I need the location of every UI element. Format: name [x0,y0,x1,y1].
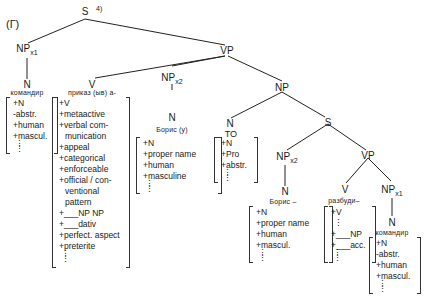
ellipsis-icon: ⋮⋮ [221,171,253,181]
feature: +V [59,98,125,109]
feature: +N [221,138,253,149]
feature: ⋮ [331,218,371,229]
feature: +perfect. aspect [59,230,125,241]
ellipsis-icon: ⋮⋮ [331,251,371,261]
feature: +Pro [221,149,253,160]
node-n-to: N [226,118,233,129]
lexeme-komandir-2: командир [375,229,408,237]
node-np-x2-object: NPx2 [161,72,182,87]
node-v-embedded: V [342,184,349,195]
ellipsis-icon: ⋮⋮ [13,142,53,152]
figure-label: (Г) [6,18,19,30]
feature: +proper name [256,218,328,229]
np-subscript: x1 [30,49,37,56]
ellipsis-icon: ⋮⋮ [59,252,125,262]
feature: +proper name [143,149,217,160]
ellipsis-icon: ⋮⋮ [143,182,217,192]
node-np-x1-subject: NPx1 [16,43,37,58]
feature: ventional [59,186,125,197]
node-n-embedded-object: N [388,217,395,228]
node-np-complement: NP [275,82,289,93]
feature: munication [59,131,125,142]
feature: -abstr. [376,249,416,260]
ellipsis-icon: ⋮⋮ [256,251,328,261]
feature-matrix-komandir-1: +N -abstr. +human +mascul. ⋮⋮ [6,97,58,154]
feature-matrix-to: +N +Pro +abstr. ⋮⋮ [214,137,258,183]
feature: +appeal [59,142,125,153]
node-vp-embedded: VP [361,150,374,161]
lexeme-razbudi: разбуди– [328,197,359,205]
feature-matrix-boris-y: +N +proper name +human +masculine ⋮⋮ [136,137,222,194]
node-n-embedded-subject: N [281,186,288,197]
ellipsis-icon: ⋮⋮ [376,282,416,292]
node-np-x1-embedded: NPx1 [381,184,402,199]
node-s-root: S [82,6,89,17]
node-s-embedded: S [325,117,332,128]
np-subscript: x2 [175,78,182,85]
np-label: NP [276,151,290,162]
feature: +human [256,229,328,240]
np-label: NP [161,72,175,83]
lexeme-prikaz: приказ (ыв) а- [68,89,116,97]
feature: +N [376,238,416,249]
feature: +official / con- [59,175,125,186]
feature: -abstr. [13,109,53,120]
feature: +___NP NP [59,208,125,219]
node-n-object: N [168,112,175,123]
feature: +human [376,260,416,271]
feature: +human [13,120,53,131]
footnote-marker: 4) [96,5,102,12]
feature: +enforceable [59,164,125,175]
feature: +human [143,160,217,171]
lexeme-boris-y: Борис (у) [156,126,188,134]
node-vp-main: VP [220,45,233,56]
feature-matrix-komandir-2: +N -abstr. +human +mascul. ⋮⋮ [369,237,421,294]
feature: +verbal com- [59,120,125,131]
np-subscript: x2 [290,157,297,164]
node-np-x2-embedded: NPx2 [276,151,297,166]
feature: +___dativ [59,219,125,230]
feature: pattern [59,197,125,208]
feature: +N [143,138,217,149]
np-label: NP [381,184,395,195]
feature: +___NP [331,229,371,240]
feature-matrix-prikaz: +V +metaactive +verbal com- munication +… [52,97,130,268]
lexeme-boris-dash: Борис – [269,198,296,206]
np-subscript: x1 [395,190,402,197]
lexeme-komandir-1: командир [10,89,43,97]
feature: +metaactive [59,109,125,120]
feature: +N [13,98,53,109]
feature: +masculine [143,171,217,182]
feature: +V [331,207,371,218]
feature: +N [256,207,328,218]
feature-matrix-boris-dash: +N +proper name +human +mascul. ⋮⋮ [249,206,333,263]
feature: +categorical [59,153,125,164]
np-label: NP [16,43,30,54]
